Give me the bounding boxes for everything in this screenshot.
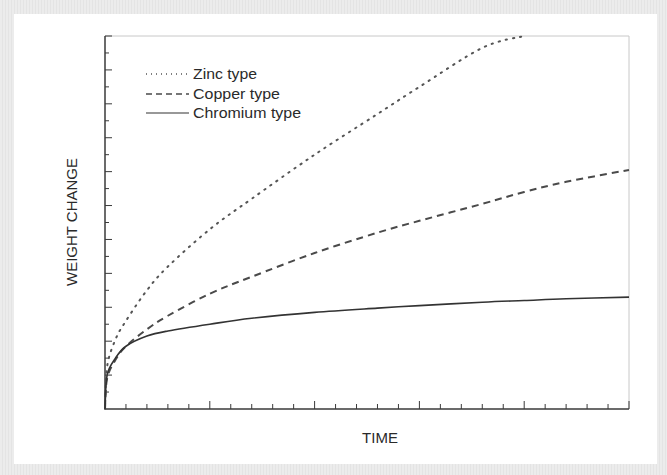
legend-zinc-label: Zinc type: [193, 65, 257, 82]
zinc-type-line: [105, 36, 524, 409]
line-chart: Zinc type Copper type Chromium type TIME…: [0, 0, 667, 475]
legend-copper-label: Copper type: [193, 85, 280, 102]
copper-type-line: [105, 170, 629, 409]
x-axis-label: TIME: [362, 429, 398, 446]
plot-frame: [105, 36, 629, 409]
axis-ticks: [105, 36, 629, 409]
chromium-type-line: [105, 297, 629, 409]
legend-chromium-label: Chromium type: [193, 104, 301, 121]
legend: Zinc type Copper type Chromium type: [146, 65, 301, 121]
y-axis-label: WEIGHT CHANGE: [63, 158, 80, 286]
series-lines: [105, 36, 629, 409]
